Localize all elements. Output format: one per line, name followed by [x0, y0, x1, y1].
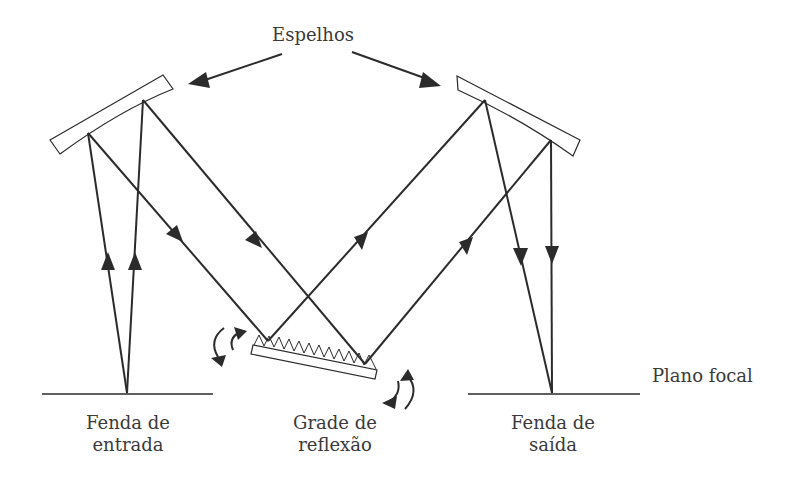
pointer-right-mirror [352, 52, 430, 80]
ray-grating-to-mirror-1 [268, 100, 485, 341]
arrow-up-icon [459, 237, 473, 255]
rotate-arrow-icon [382, 396, 397, 409]
ray-mirror-to-exit-2 [551, 140, 552, 393]
exit-slit-label: Fenda de saída [503, 412, 603, 456]
entrance-slit-label-line2: entrada [78, 434, 178, 456]
grating-label-line2: reflexão [285, 434, 385, 456]
exit-slit-label-line1: Fenda de [503, 412, 603, 434]
arrow-down-icon [513, 248, 528, 266]
arrow-up-icon [128, 252, 142, 270]
right-mirror [457, 76, 580, 156]
arrow-left-icon [188, 72, 210, 88]
exit-slit-label-line2: saída [503, 434, 603, 456]
entrance-slit-label: Fenda de entrada [78, 412, 178, 456]
arrow-down-icon [545, 246, 559, 264]
entrance-slit-label-line1: Fenda de [78, 412, 178, 434]
rotate-arrow-icon [400, 369, 414, 381]
grating-label: Grade de reflexão [285, 412, 385, 456]
grating-label-line1: Grade de [285, 412, 385, 434]
ray-arrowheads [101, 225, 559, 270]
rotate-arrow-icon [211, 355, 226, 367]
arrow-up-icon [101, 252, 115, 270]
ray-mirror-to-exit-1 [485, 100, 552, 393]
mirrors-label: Espelhos [272, 24, 354, 46]
ray-entrance-to-mirror-2 [127, 100, 143, 393]
arrow-up-icon [354, 232, 368, 250]
arrow-right-icon [419, 72, 441, 88]
pointer-left-mirror [205, 54, 282, 80]
focal-plane-label: Plano focal [652, 365, 753, 387]
